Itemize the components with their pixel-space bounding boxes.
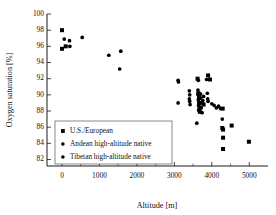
data-point: [187, 89, 191, 93]
data-point: [208, 77, 212, 81]
y-tick-label: 100: [33, 9, 44, 18]
y-tick-label: 96: [37, 41, 45, 50]
data-point: [247, 140, 251, 144]
legend-marker-square: [61, 129, 65, 133]
legend-label: U.S./European: [70, 126, 113, 135]
data-point: [64, 44, 68, 48]
data-point: [199, 101, 203, 105]
x-tick-label: 1000: [92, 171, 107, 180]
data-point: [119, 49, 123, 53]
y-axis-ticks: 828486889092949698100: [33, 9, 51, 164]
y-tick-label: 84: [37, 138, 45, 147]
y-tick-label: 82: [37, 154, 45, 163]
y-tick-label: 88: [37, 106, 45, 115]
oxygen-saturation-vs-altitude-chart: 828486889092949698100 010002000300040005…: [0, 0, 276, 215]
data-point: [206, 99, 210, 103]
data-point: [60, 47, 64, 51]
x-tick-label: 4000: [204, 171, 219, 180]
data-point: [80, 36, 84, 40]
y-tick-label: 94: [37, 57, 45, 66]
legend-marker-circle: [61, 142, 65, 146]
data-point: [68, 39, 72, 43]
data-point: [196, 93, 200, 97]
x-tick-label: 5000: [242, 171, 257, 180]
y-tick-label: 92: [37, 73, 45, 82]
y-tick-label: 90: [37, 90, 45, 99]
data-point: [188, 103, 192, 107]
x-axis-title: Altitude [m]: [137, 201, 178, 210]
data-point: [200, 111, 204, 115]
data-point: [177, 80, 181, 84]
x-tick-label: 2000: [130, 171, 145, 180]
data-point: [199, 106, 203, 110]
legend: U.S./EuropeanAndean high-altitude native…: [55, 121, 172, 164]
data-point: [221, 136, 225, 140]
data-point: [68, 44, 72, 48]
data-point: [196, 78, 200, 82]
data-point: [221, 128, 225, 132]
data-point: [60, 28, 64, 32]
x-axis-ticks: 010002000300040005000: [60, 162, 257, 180]
legend-label: Tibetan high-altitude native: [70, 152, 151, 161]
data-point: [221, 147, 225, 151]
data-point: [219, 107, 223, 111]
data-point: [118, 67, 122, 71]
data-point: [220, 117, 224, 121]
data-point: [176, 101, 180, 105]
data-point: [107, 53, 111, 57]
data-point: [205, 91, 209, 95]
data-point: [188, 93, 192, 97]
y-tick-label: 86: [37, 122, 45, 131]
data-point: [188, 99, 192, 103]
y-tick-label: 98: [37, 25, 45, 34]
data-point: [205, 78, 209, 82]
data-point: [199, 96, 203, 100]
data-point: [62, 37, 66, 41]
data-point: [206, 73, 210, 77]
data-point: [196, 88, 200, 92]
x-tick-label: 3000: [167, 171, 182, 180]
data-point: [230, 124, 234, 128]
legend-label: Andean high-altitude native: [70, 139, 151, 148]
x-tick-label: 0: [60, 171, 64, 180]
data-point: [195, 121, 199, 125]
y-axis-title: Oxygen saturation [%]: [5, 52, 14, 127]
scatter-chart-figure: 828486889092949698100 010002000300040005…: [0, 0, 276, 215]
legend-marker-circle: [61, 155, 65, 159]
